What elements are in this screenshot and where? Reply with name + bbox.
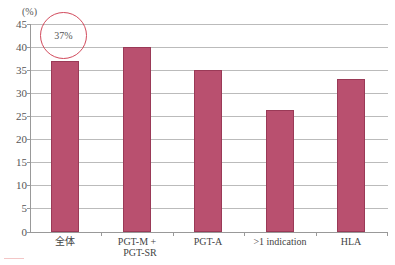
bar-hla <box>337 79 365 232</box>
bar-all <box>51 61 79 232</box>
y-tick-20: 20 <box>0 133 27 145</box>
bar-pgt-m-sr <box>123 47 151 232</box>
y-tick-10: 10 <box>0 179 27 191</box>
x-label-pgt-m: PGT-M + <box>97 236 177 247</box>
y-axis <box>30 24 31 233</box>
y-tick-30: 30 <box>0 87 27 99</box>
bar-pgt-a <box>194 70 222 232</box>
bar-multi-indication <box>266 110 294 232</box>
y-tick-0: 0 <box>0 226 27 238</box>
y-tick-15: 15 <box>0 156 27 168</box>
y-tick-45: 45 <box>0 18 27 30</box>
x-label-pgt-sr: PGT-SR <box>100 247 180 258</box>
x-label-multi-indication: >1 indication <box>240 236 320 247</box>
y-tick-40: 40 <box>0 41 27 53</box>
y-tick-35: 35 <box>0 64 27 76</box>
bar-chart: (%) 45 40 35 30 25 20 15 10 5 0 37% 全体 P… <box>0 0 395 265</box>
y-tick-25: 25 <box>0 110 27 122</box>
annotation-label: 37% <box>40 30 87 41</box>
x-axis <box>30 232 388 233</box>
y-axis-unit: (%) <box>22 6 37 17</box>
divider <box>4 258 24 259</box>
x-label-hla: HLA <box>311 236 391 247</box>
x-label-pgt-a: PGT-A <box>168 236 248 247</box>
y-tick-5: 5 <box>0 202 27 214</box>
x-label-all: 全体 <box>25 236 105 247</box>
